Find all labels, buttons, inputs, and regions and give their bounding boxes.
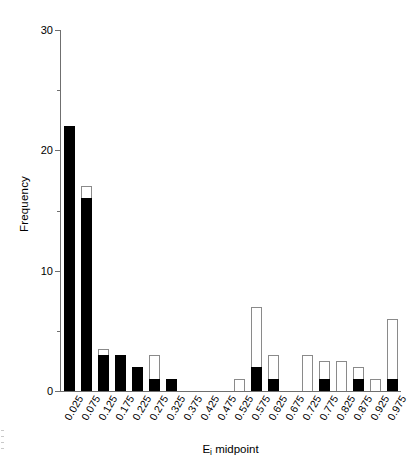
bar-segment-black-0.975: [387, 379, 399, 391]
bar-segment-black-0.775: [319, 379, 331, 391]
bar-0.525: [234, 30, 246, 391]
bar-0.125: [98, 30, 110, 391]
bar-segment-black-0.125: [98, 355, 110, 391]
bar-segment-black-0.175: [115, 355, 127, 391]
x-axis-title: Ei midpoint: [60, 443, 401, 455]
bar-segment-black-0.275: [149, 379, 161, 391]
y-axis-minor-tick-5: [57, 331, 60, 332]
y-axis-tick-10: [55, 271, 60, 272]
bar-0.775: [319, 30, 331, 391]
bar-segment-white-0.725: [302, 355, 314, 391]
bar-0.375: [183, 30, 195, 391]
bar-0.975: [387, 30, 399, 391]
bar-0.425: [200, 30, 212, 391]
x-axis-title-tail: midpoint: [212, 443, 259, 455]
bar-0.725: [302, 30, 314, 391]
bar-0.025: [64, 30, 76, 391]
x-axis-title-subscript: i: [210, 447, 212, 457]
bar-segment-black-0.575: [251, 367, 263, 391]
bar-0.225: [132, 30, 144, 391]
bar-0.325: [166, 30, 178, 391]
bar-segment-white-0.525: [234, 379, 246, 391]
histogram-figure: Frequency 0102030 0.0250.0750.1250.1750.…: [0, 0, 413, 463]
scan-artifact: [1, 436, 4, 437]
plot-area: 0102030: [60, 30, 401, 392]
bar-segment-black-0.225: [132, 367, 144, 391]
bar-0.075: [81, 30, 93, 391]
y-axis-tick-label-0: 0: [47, 385, 53, 397]
y-axis-tick-20: [55, 150, 60, 151]
y-axis-tick-label-30: 30: [41, 24, 53, 36]
y-axis-tick-label-10: 10: [41, 265, 53, 277]
x-axis-title-main: E: [202, 443, 210, 455]
bar-0.875: [353, 30, 365, 391]
bar-0.175: [115, 30, 127, 391]
bar-0.675: [285, 30, 297, 391]
bar-0.275: [149, 30, 161, 391]
bar-segment-black-0.875: [353, 379, 365, 391]
bar-segment-black-0.075: [81, 198, 93, 391]
y-axis-tick-label-20: 20: [41, 144, 53, 156]
bar-segment-black-0.325: [166, 379, 178, 391]
bar-0.925: [370, 30, 382, 391]
bar-0.575: [251, 30, 263, 391]
bar-group: [61, 30, 401, 391]
bar-segment-white-0.925: [370, 379, 382, 391]
y-axis-title: Frequency: [18, 134, 30, 274]
y-axis-tick-30: [55, 30, 60, 31]
bar-segment-black-0.025: [64, 126, 76, 391]
bar-segment-white-0.825: [336, 361, 348, 391]
y-axis-minor-tick-15: [57, 211, 60, 212]
bar-0.825: [336, 30, 348, 391]
scan-artifact: [1, 430, 4, 431]
scan-artifact: [1, 442, 4, 443]
bar-0.475: [217, 30, 229, 391]
y-axis-minor-tick-25: [57, 90, 60, 91]
x-axis-line: [60, 391, 401, 392]
scan-artifact: [1, 448, 4, 449]
bar-segment-black-0.625: [268, 379, 280, 391]
bar-0.625: [268, 30, 280, 391]
y-axis-tick-0: [55, 391, 60, 392]
